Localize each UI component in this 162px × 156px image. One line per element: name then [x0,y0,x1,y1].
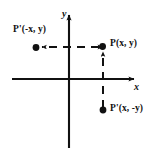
x-axis-label: x [134,82,139,92]
point-dot-p [99,43,106,50]
point-dot-p-reflect-x [100,107,107,114]
coordinate-plane-figure: P'(-x, y) P(x, y) P'(x, -y) y x [0,0,162,156]
point-label-p-reflect-y: P'(-x, y) [13,25,46,35]
y-axis-label: y [62,9,66,19]
point-dot-p-reflect-y [33,44,40,51]
point-label-p-reflect-x: P'(x, -y) [110,104,143,114]
point-label-p: P(x, y) [110,39,137,49]
